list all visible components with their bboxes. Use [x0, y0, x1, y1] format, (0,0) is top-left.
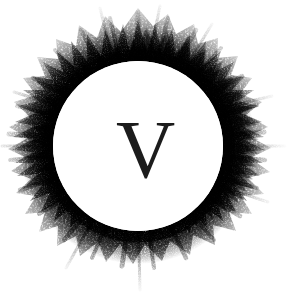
inner-white-disc: [0, 0, 293, 296]
artboard: V: [0, 0, 293, 296]
